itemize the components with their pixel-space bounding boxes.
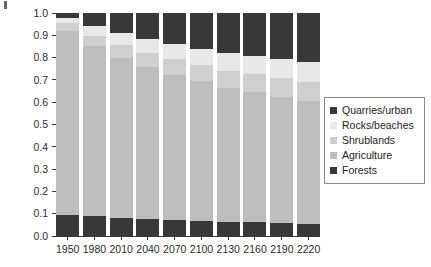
x-axis-tick-mark: [243, 236, 266, 241]
bar-segment: [136, 53, 159, 67]
bar-segment: [83, 216, 106, 236]
x-axis-tick-mark: [297, 236, 320, 241]
bar-segment: [243, 74, 266, 92]
bar-segment: [163, 220, 186, 236]
legend-item-label: Rocks/beaches: [342, 120, 414, 131]
bar-segment: [56, 23, 79, 31]
bar-segment: [297, 224, 320, 236]
bar-2010[interactable]: [110, 13, 133, 236]
y-axis-tick-label: 0.1: [33, 208, 52, 219]
x-axis-tick-label: 1980: [83, 244, 106, 255]
bar-segment: [190, 221, 213, 236]
bar-segment: [190, 81, 213, 220]
bar-1950[interactable]: [56, 13, 79, 236]
y-axis-tick-label: 1.0: [33, 8, 52, 19]
x-axis-tick-label: 2220: [297, 244, 320, 255]
y-axis-tick-label: 0.2: [33, 186, 52, 197]
legend-swatch-icon: [330, 107, 337, 114]
bar-segment: [56, 31, 79, 215]
bar-segment: [270, 78, 293, 96]
bar-segment: [136, 67, 159, 219]
x-axis-tick-label: 2130: [217, 244, 240, 255]
bar-segment: [163, 59, 186, 74]
bar-segment: [163, 13, 186, 44]
bar-segment: [110, 33, 133, 45]
bar-segment: [83, 26, 106, 36]
legend-item[interactable]: Rocks/beaches: [330, 118, 419, 133]
x-axis-tick-label: 2100: [190, 244, 213, 255]
bar-segment: [297, 101, 320, 224]
bar-segment: [190, 13, 213, 49]
x-axis-tick-mark: [83, 236, 106, 241]
bar-segment: [136, 13, 159, 39]
bar-segment: [270, 59, 293, 78]
bar-segment: [136, 39, 159, 53]
bar-2190[interactable]: [270, 13, 293, 236]
bar-segment: [217, 71, 240, 88]
bar-segment: [217, 13, 240, 53]
bar-segment: [297, 82, 320, 101]
bar-segment: [270, 97, 293, 223]
legend-item[interactable]: Forests: [330, 163, 419, 178]
bar-2040[interactable]: [136, 13, 159, 236]
bar-segment: [297, 13, 320, 62]
y-axis-tick-label: 0.8: [33, 52, 52, 63]
bar-segment: [110, 45, 133, 57]
x-axis-tick-label: 2040: [136, 244, 159, 255]
y-axis-tick-label: 0.5: [33, 119, 52, 130]
bar-2130[interactable]: [217, 13, 240, 236]
x-axis-tick-mark: [110, 236, 133, 241]
plot-area: [56, 13, 320, 236]
bar-segment: [190, 65, 213, 81]
bar-segment: [243, 13, 266, 56]
x-axis-tick-mark: [217, 236, 240, 241]
bar-segment: [297, 62, 320, 82]
bar-2100[interactable]: [190, 13, 213, 236]
legend-swatch-icon: [330, 137, 337, 144]
bar-segment: [270, 13, 293, 59]
bars-row: [56, 13, 320, 236]
y-axis-tick-label: 0.6: [33, 97, 52, 108]
bar-1980[interactable]: [83, 13, 106, 236]
bar-segment: [243, 92, 266, 222]
x-axis-tick-mark: [163, 236, 186, 241]
x-axis-tick-label: 2010: [110, 244, 133, 255]
y-axis: 1.00.90.80.70.60.50.40.30.20.10.0: [0, 13, 56, 236]
bar-segment: [270, 223, 293, 236]
bar-segment: [110, 218, 133, 236]
legend-item-label: Forests: [342, 165, 377, 176]
y-axis-tick-label: 0.0: [33, 231, 52, 242]
bar-segment: [110, 13, 133, 33]
bar-segment: [83, 13, 106, 26]
corner-artifact-glyph: [4, 1, 7, 9]
legend-item[interactable]: Agriculture: [330, 148, 419, 163]
x-axis-tick-label: 2160: [243, 244, 266, 255]
bar-2160[interactable]: [243, 13, 266, 236]
bar-segment: [83, 46, 106, 216]
legend-swatch-icon: [330, 122, 337, 129]
bar-segment: [243, 222, 266, 236]
legend-item-label: Shrublands: [342, 135, 395, 146]
legend-swatch-icon: [330, 167, 337, 174]
stacked-bar-chart: 1.00.90.80.70.60.50.40.30.20.10.0 195019…: [0, 0, 431, 267]
y-axis-tick-label: 0.4: [33, 142, 52, 153]
bar-segment: [190, 49, 213, 66]
bar-2070[interactable]: [163, 13, 186, 236]
x-axis-tick-label: 2190: [270, 244, 293, 255]
legend-item[interactable]: Quarries/urban: [330, 103, 419, 118]
bar-2220[interactable]: [297, 13, 320, 236]
bar-segment: [163, 75, 186, 220]
bar-segment: [243, 56, 266, 74]
chart-legend: Quarries/urbanRocks/beachesShrublandsAgr…: [324, 97, 425, 184]
x-axis-labels: 1950198020102040207021002130216021902220: [56, 244, 320, 255]
bar-segment: [217, 88, 240, 222]
bar-segment: [56, 215, 79, 236]
bar-segment: [136, 219, 159, 236]
bar-segment: [110, 58, 133, 218]
bar-segment: [217, 222, 240, 236]
legend-item-label: Agriculture: [342, 150, 392, 161]
y-axis-tick-label: 0.9: [33, 30, 52, 41]
legend-item-label: Quarries/urban: [342, 105, 412, 116]
x-axis-tick-label: 2070: [163, 244, 186, 255]
legend-item[interactable]: Shrublands: [330, 133, 419, 148]
